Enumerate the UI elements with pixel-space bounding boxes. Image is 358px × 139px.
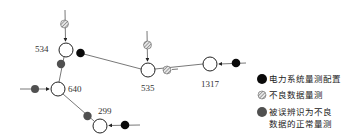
measurements	[31, 20, 240, 129]
meas-299-right	[121, 121, 130, 130]
legend-hatched-icon	[258, 91, 266, 99]
misid-534-640	[57, 60, 65, 68]
bus-1317	[203, 57, 217, 71]
bad-data-535-right	[163, 66, 171, 74]
node-label-535: 535	[141, 84, 155, 93]
node-label-534: 534	[35, 45, 49, 54]
bad-data-534-top	[61, 20, 69, 28]
branch-535-1317	[155, 64, 203, 69]
bus-534	[59, 43, 73, 57]
bad-data-535-top	[144, 41, 152, 49]
legend-label-measurement: 电力系统量测配置	[269, 74, 341, 85]
node-label-1317: 1317	[201, 80, 219, 89]
legend-label-misidentified-line1: 被误辨识为不良	[269, 107, 332, 118]
bus-299	[93, 119, 107, 133]
legend-label-misidentified-line2: 数据的正常量测	[269, 119, 332, 130]
meas-534-right	[76, 49, 85, 58]
bus-535	[141, 63, 155, 77]
legend-symbols	[257, 74, 267, 117]
misid-640-299	[83, 112, 91, 120]
legend-grey-icon	[257, 107, 267, 117]
legend-label-bad-data: 不良数据量测	[269, 90, 323, 101]
bus-640	[51, 82, 65, 96]
node-label-299: 299	[98, 107, 112, 116]
injection-535-right	[172, 69, 178, 70]
node-label-640: 640	[68, 85, 82, 94]
misid-640-left	[31, 85, 39, 93]
meas-1317-right	[232, 59, 241, 68]
branch-534-535	[80, 53, 141, 69]
legend-black-icon	[257, 74, 267, 84]
